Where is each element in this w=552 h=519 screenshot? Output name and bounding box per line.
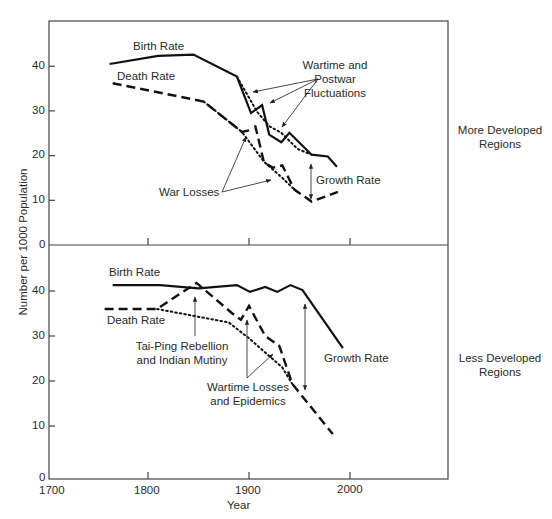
series-death-rate-trend-without-war-losses <box>204 102 295 190</box>
wartime-line2: Postwar <box>290 72 380 86</box>
less-developed-regions-label: Less Developed Regions <box>455 351 545 379</box>
top-birth-rate-label: Birth Rate <box>133 39 184 53</box>
taiping-rebellion-label: Tai-Ping Rebellion and Indian Mutiny <box>132 339 232 367</box>
series-death-rate-war-losses <box>255 125 338 201</box>
xtick-1700: 1700 <box>39 484 65 496</box>
more-developed-line1: More Developed <box>455 123 545 137</box>
wartime-line3: Fluctuations <box>290 86 380 100</box>
demographic-transition-chart <box>0 0 552 519</box>
bottom-birth-rate-label: Birth Rate <box>109 265 160 279</box>
plot-border <box>49 21 448 479</box>
xtick-1900: 1900 <box>235 484 261 496</box>
plot-frame <box>49 21 448 479</box>
bottom-growth-rate-label: Growth Rate <box>324 351 389 365</box>
war-losses-arrow-2 <box>222 180 271 192</box>
war-losses-arrow-1 <box>222 137 246 192</box>
top-ytick-40: 40 <box>32 59 45 71</box>
wartime-losses-arrow-2 <box>247 354 273 378</box>
more-developed-regions-label: More Developed Regions <box>455 123 545 151</box>
bottom-ytick-40: 40 <box>32 284 45 296</box>
wartime-fluctuations-label: Wartime and Postwar Fluctuations <box>290 58 380 100</box>
bottom-ytick-0: 0 <box>39 471 45 483</box>
top-ytick-10: 10 <box>32 193 45 205</box>
taiping-line2: and Indian Mutiny <box>132 353 232 367</box>
bottom-death-rate-label: Death Rate <box>107 313 165 327</box>
wartime-losses-line1: Wartime Losses <box>198 380 298 394</box>
taiping-line1: Tai-Ping Rebellion <box>132 339 232 353</box>
less-developed-line2: Regions <box>455 365 545 379</box>
xtick-2000: 2000 <box>337 483 363 495</box>
top-ytick-0: 0 <box>39 238 45 250</box>
bottom-ytick-10: 10 <box>32 419 45 431</box>
war-losses-label: War Losses <box>159 185 219 199</box>
top-death-rate-label: Death Rate <box>117 69 175 83</box>
top-ytick-20: 20 <box>32 148 45 160</box>
bottom-ytick-20: 20 <box>32 374 45 386</box>
more-developed-line2: Regions <box>455 137 545 151</box>
wartime-line1: Wartime and <box>290 58 380 72</box>
top-ytick-30: 30 <box>32 104 45 116</box>
xtick-1800: 1800 <box>134 484 160 496</box>
bottom-ytick-30: 30 <box>32 329 45 341</box>
less-developed-line1: Less Developed <box>455 351 545 365</box>
top-growth-rate-label: Growth Rate <box>316 173 381 187</box>
wartime-losses-line2: and Epidemics <box>198 394 298 408</box>
x-axis-label: Year <box>227 499 250 511</box>
y-axis-label: Number per 1000 Population <box>17 157 29 327</box>
wartime-losses-epidemics-label: Wartime Losses and Epidemics <box>198 380 298 408</box>
